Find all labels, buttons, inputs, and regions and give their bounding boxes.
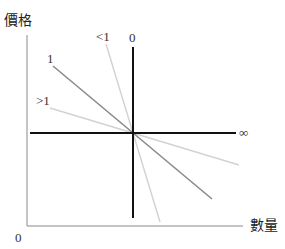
y-axis-label: 價格 [4,13,32,27]
origin-label: 0 [15,231,22,244]
line-elastic [50,108,239,165]
label-elastic: >1 [36,94,50,107]
x-axis-label: 數量 [250,218,278,232]
label-inelastic: <1 [96,30,110,43]
label-perfectly-elastic: ∞ [239,126,248,139]
label-unit-elastic: 1 [47,52,54,65]
label-perfectly-inelastic: 0 [129,31,136,44]
